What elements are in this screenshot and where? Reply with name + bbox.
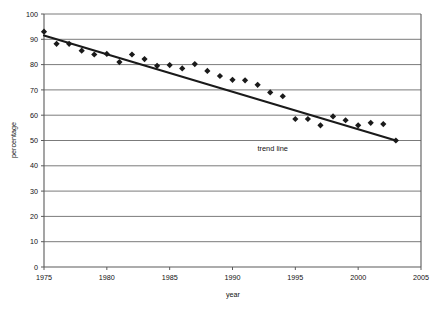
x-tick-label-2005: 2005	[413, 273, 429, 282]
y-tick-label-80: 80	[30, 60, 38, 69]
x-tick-label-2000: 2000	[350, 273, 366, 282]
x-tick-label-1980: 1980	[99, 273, 115, 282]
y-tick-label-100: 100	[26, 10, 38, 19]
y-tick-label-30: 30	[30, 187, 38, 196]
y-tick-label-60: 60	[30, 111, 38, 120]
x-axis-label: year	[226, 290, 241, 299]
chart-background	[0, 0, 442, 311]
y-tick-label-0: 0	[34, 263, 38, 272]
chart-container: 0102030405060708090100 19751980198519901…	[0, 0, 442, 311]
y-tick-label-50: 50	[30, 136, 38, 145]
x-tick-label-1995: 1995	[287, 273, 303, 282]
y-axis-label: percentage	[9, 122, 18, 158]
y-tick-label-40: 40	[30, 161, 38, 170]
y-tick-label-20: 20	[30, 212, 38, 221]
trend-line-annotation: trend line	[258, 144, 288, 153]
x-tick-label-1985: 1985	[162, 273, 178, 282]
y-tick-label-10: 10	[30, 237, 38, 246]
y-tick-label-90: 90	[30, 35, 38, 44]
x-tick-label-1990: 1990	[225, 273, 241, 282]
y-tick-label-70: 70	[30, 86, 38, 95]
percentage-vs-year-scatter-chart: 0102030405060708090100 19751980198519901…	[0, 0, 442, 311]
x-tick-label-1975: 1975	[36, 273, 52, 282]
